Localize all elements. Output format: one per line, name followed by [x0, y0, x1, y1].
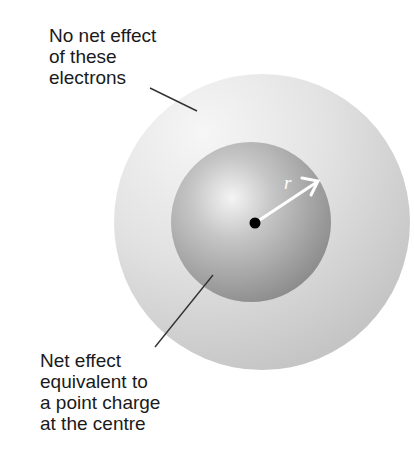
bottom-annotation-line-2: equivalent to: [40, 371, 160, 392]
radius-label: r: [284, 172, 291, 194]
bottom-annotation-line-3: a point charge: [40, 392, 160, 413]
top-annotation: No net effect of these electrons: [49, 25, 156, 88]
bottom-annotation-line-4: at the centre: [40, 413, 160, 434]
top-annotation-line-2: of these: [49, 46, 156, 67]
top-annotation-line-1: No net effect: [49, 25, 156, 46]
bottom-annotation-line-1: Net effect: [40, 350, 160, 371]
point-charge-dot: [250, 218, 261, 229]
bottom-annotation: Net effect equivalent to a point charge …: [40, 350, 160, 434]
top-annotation-line-3: electrons: [49, 67, 156, 88]
